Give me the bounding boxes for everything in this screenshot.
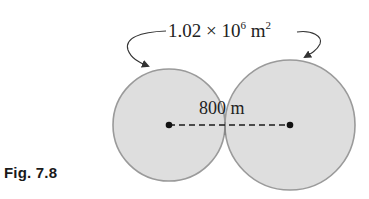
left-center-dot [166,122,173,129]
area-label: 1.02 × 106 m2 [168,20,271,42]
distance-label: 800 m [199,98,245,119]
area-unit: m [246,20,266,41]
area-coefficient: 1.02 × 10 [168,20,240,41]
right-area-arrow [297,32,320,57]
area-unit-exponent: 2 [266,19,272,31]
right-center-dot [287,122,294,129]
figure-7-8: 1.02 × 106 m2 800 m Fig. 7.8 [0,0,369,199]
figure-caption: Fig. 7.8 [4,164,57,181]
left-area-arrow [127,31,166,66]
